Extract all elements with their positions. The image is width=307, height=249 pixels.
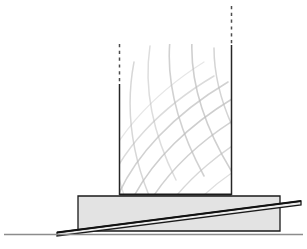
elevation-drawing-canvas <box>0 0 307 249</box>
elevation-svg <box>0 0 307 249</box>
